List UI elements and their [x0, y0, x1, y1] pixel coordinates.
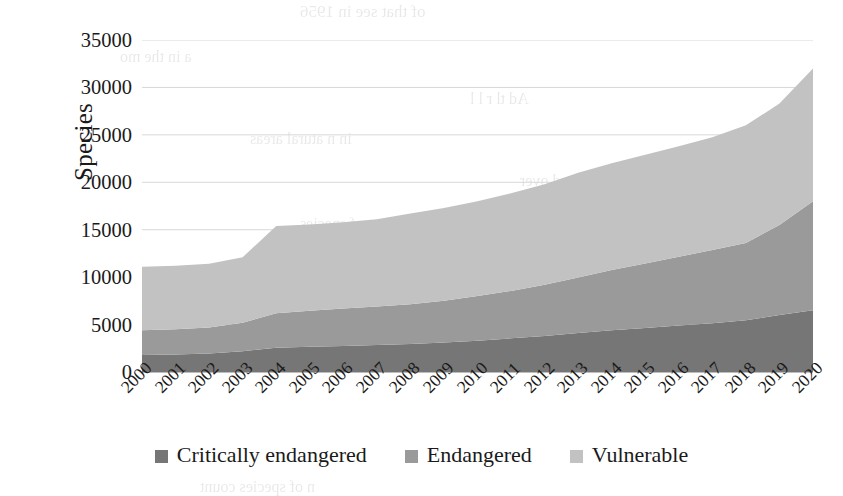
stacked-area-chart: Species 05000100001500020000250003000035… — [0, 0, 843, 496]
legend-item[interactable]: Endangered — [405, 444, 532, 466]
x-tick-label: 2013 — [554, 359, 591, 396]
legend-swatch-icon — [155, 450, 168, 463]
x-tick-label: 2003 — [219, 359, 256, 396]
x-tick-label: 2002 — [185, 359, 222, 396]
x-tick-label: 2014 — [588, 359, 625, 396]
x-tick-label: 2019 — [755, 359, 792, 396]
legend-swatch-icon — [405, 450, 418, 463]
legend-label: Endangered — [427, 444, 532, 466]
x-tick-label: 2016 — [655, 359, 692, 396]
x-tick-label: 2015 — [621, 359, 658, 396]
legend-item[interactable]: Critically endangered — [155, 444, 367, 466]
x-axis-tick-labels: 2000200120022003200420052006200720082009… — [0, 0, 843, 496]
legend-swatch-icon — [570, 450, 583, 463]
x-tick-label: 2007 — [353, 359, 390, 396]
x-tick-label: 2004 — [252, 359, 289, 396]
legend-label: Vulnerable — [592, 444, 688, 466]
x-tick-label: 2005 — [286, 359, 323, 396]
x-tick-label: 2020 — [789, 359, 826, 396]
x-tick-label: 2006 — [319, 359, 356, 396]
x-tick-label: 2000 — [118, 359, 155, 396]
x-tick-label: 2012 — [521, 359, 558, 396]
x-tick-label: 2018 — [722, 359, 759, 396]
legend-item[interactable]: Vulnerable — [570, 444, 688, 466]
x-tick-label: 2009 — [420, 359, 457, 396]
legend-label: Critically endangered — [177, 444, 367, 466]
x-tick-label: 2010 — [454, 359, 491, 396]
x-tick-label: 2011 — [487, 360, 524, 397]
x-tick-label: 2001 — [152, 359, 189, 396]
x-tick-label: 2017 — [688, 359, 725, 396]
chart-legend: Critically endangeredEndangeredVulnerabl… — [0, 444, 843, 466]
x-tick-label: 2008 — [386, 359, 423, 396]
